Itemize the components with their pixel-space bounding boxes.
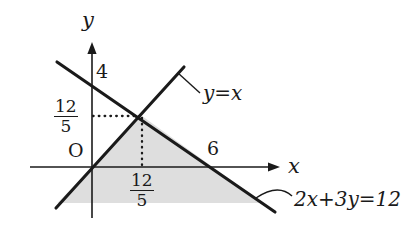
origin-label: O xyxy=(68,141,84,160)
y-intercept-tick-label: 4 xyxy=(96,62,108,81)
constraint-line-label: 2x+3y=12 xyxy=(294,189,401,209)
leader-arc-constraint xyxy=(256,190,292,198)
y-value-fraction: 12 5 xyxy=(54,98,78,135)
x-value-numerator: 12 xyxy=(130,172,154,191)
y-value-denominator: 5 xyxy=(59,117,72,135)
x-value-denominator: 5 xyxy=(135,191,148,209)
y-value-numerator: 12 xyxy=(54,98,78,117)
x-value-fraction: 12 5 xyxy=(130,172,154,209)
identity-line-label: y=x xyxy=(203,83,242,103)
y-axis-label: y xyxy=(82,10,94,31)
x-intercept-tick-label: 6 xyxy=(207,139,219,158)
coordinate-geometry-figure: y x O 4 6 12 5 12 5 y=x 2x+3y=12 xyxy=(0,0,404,226)
leader-line-identity xyxy=(178,73,200,93)
x-axis-label: x xyxy=(288,156,300,177)
x-axis-arrowhead xyxy=(268,162,280,171)
shaded-region xyxy=(58,116,263,203)
y-axis-arrowhead xyxy=(87,42,96,54)
